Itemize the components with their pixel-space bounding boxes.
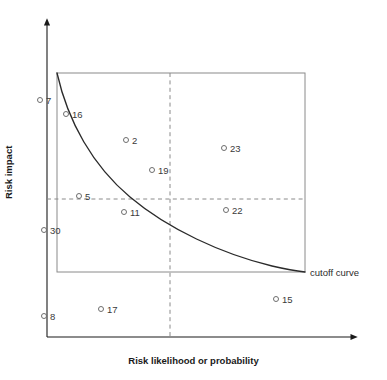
risk-matrix-chart: 7 16 2 23 19 5 22 11 30 15 17 8 cutoff c… xyxy=(0,0,387,380)
point-label-23: 23 xyxy=(230,144,241,154)
point-label-22: 22 xyxy=(232,206,243,216)
x-axis-title: Risk likelihood or probability xyxy=(0,356,387,366)
point-label-5: 5 xyxy=(85,192,90,202)
marker-22 xyxy=(224,208,229,213)
y-axis-title: Risk impact xyxy=(4,146,14,199)
marker-30 xyxy=(42,228,47,233)
point-label-30: 30 xyxy=(50,226,61,236)
point-label-11: 11 xyxy=(130,208,140,218)
plot-frame xyxy=(57,73,305,272)
point-label-16: 16 xyxy=(72,110,83,120)
marker-5 xyxy=(77,194,82,199)
marker-15 xyxy=(274,297,279,302)
point-label-15: 15 xyxy=(282,295,293,305)
marker-2 xyxy=(124,138,129,143)
marker-11 xyxy=(122,210,127,215)
marker-23 xyxy=(222,146,227,151)
point-label-7: 7 xyxy=(46,96,51,106)
point-label-19: 19 xyxy=(158,166,169,176)
marker-8 xyxy=(42,314,47,319)
marker-7 xyxy=(38,98,43,103)
marker-16 xyxy=(64,112,69,117)
point-label-17: 17 xyxy=(107,305,118,315)
point-label-2: 2 xyxy=(132,136,137,146)
marker-19 xyxy=(150,168,155,173)
cutoff-curve xyxy=(57,73,305,272)
point-label-8: 8 xyxy=(50,312,55,322)
cutoff-curve-label: cutoff curve xyxy=(310,268,359,278)
marker-17 xyxy=(99,307,104,312)
chart-canvas xyxy=(0,0,387,380)
